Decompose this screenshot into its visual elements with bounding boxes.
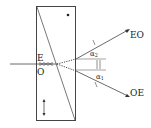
optic-axis-dot-icon <box>67 14 70 17</box>
upper-internal-ray <box>57 59 76 64</box>
label-eo: EO <box>130 30 144 40</box>
label-o: O <box>37 67 44 77</box>
lower-internal-ray <box>57 64 76 71</box>
label-alpha2: α2 <box>90 50 98 58</box>
eo-ray <box>76 30 128 59</box>
label-e: E <box>37 53 44 63</box>
label-alpha1: α1 <box>96 73 104 81</box>
wollaston-prism-diagram: E O EO OE α2 α1 <box>0 0 151 128</box>
label-oe: OE <box>130 88 144 98</box>
prism-interface <box>37 7 75 120</box>
